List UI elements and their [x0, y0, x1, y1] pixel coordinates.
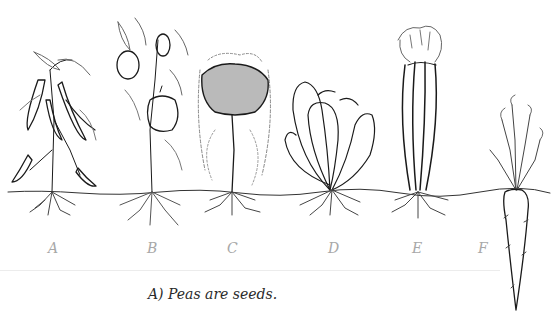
plant-label-c: C [227, 240, 238, 256]
plant-label-b: B [147, 240, 157, 256]
plant-label-f: F [478, 240, 488, 256]
plants-illustration [0, 0, 557, 313]
plant-label-e: E [412, 240, 422, 256]
ground-line [8, 188, 550, 196]
plant-label-a: A [48, 240, 58, 256]
celery-plant-icon [392, 26, 448, 218]
carrot-plant-icon [490, 95, 543, 310]
lettuce-plant-icon [285, 82, 375, 215]
answer-option-a[interactable]: A) Peas are seeds. [148, 286, 277, 302]
pea-plant-icon [12, 52, 96, 215]
plant-label-d: D [328, 240, 339, 256]
divider [0, 270, 500, 271]
